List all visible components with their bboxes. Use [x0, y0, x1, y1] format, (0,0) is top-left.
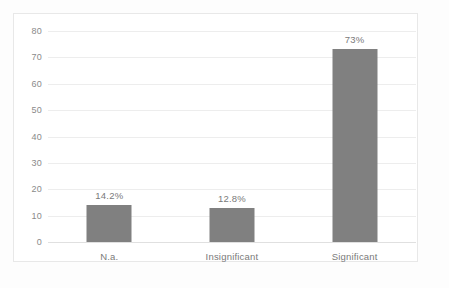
gridline-0: [48, 242, 416, 243]
y-axis-tick-label: 80: [32, 26, 42, 36]
x-axis-category-label: Significant: [332, 251, 378, 262]
bar-value-label: 12.8%: [218, 193, 246, 204]
plot-area: 01020304050607080 14.2%N.a.12.8%Insignif…: [48, 31, 416, 242]
bar-group: 14.2%N.a.: [48, 31, 171, 242]
y-axis-tick-label: 10: [32, 211, 42, 221]
chart-page: 01020304050607080 14.2%N.a.12.8%Insignif…: [0, 0, 449, 288]
bar-series: 14.2%N.a.12.8%Insignificant73%Significan…: [48, 31, 416, 242]
y-axis-tick-label: 0: [37, 237, 42, 247]
y-axis-tick-label: 60: [32, 79, 42, 89]
y-axis-tick-label: 40: [32, 132, 42, 142]
y-axis-tick-label: 20: [32, 184, 42, 194]
y-axis-tick-label: 50: [32, 105, 42, 115]
x-axis-category-label: Insignificant: [206, 251, 259, 262]
bar-group: 12.8%Insignificant: [171, 31, 294, 242]
bar[interactable]: [87, 205, 132, 242]
bar-group: 73%Significant: [293, 31, 416, 242]
bar-value-label: 73%: [345, 34, 365, 45]
x-axis-category-label: N.a.: [100, 251, 118, 262]
chart-frame: 01020304050607080 14.2%N.a.12.8%Insignif…: [13, 13, 418, 262]
y-axis-tick-label: 30: [32, 158, 42, 168]
bar[interactable]: [332, 49, 377, 242]
y-axis-tick-label: 70: [32, 52, 42, 62]
bar[interactable]: [209, 208, 254, 242]
bar-value-label: 14.2%: [95, 190, 123, 201]
